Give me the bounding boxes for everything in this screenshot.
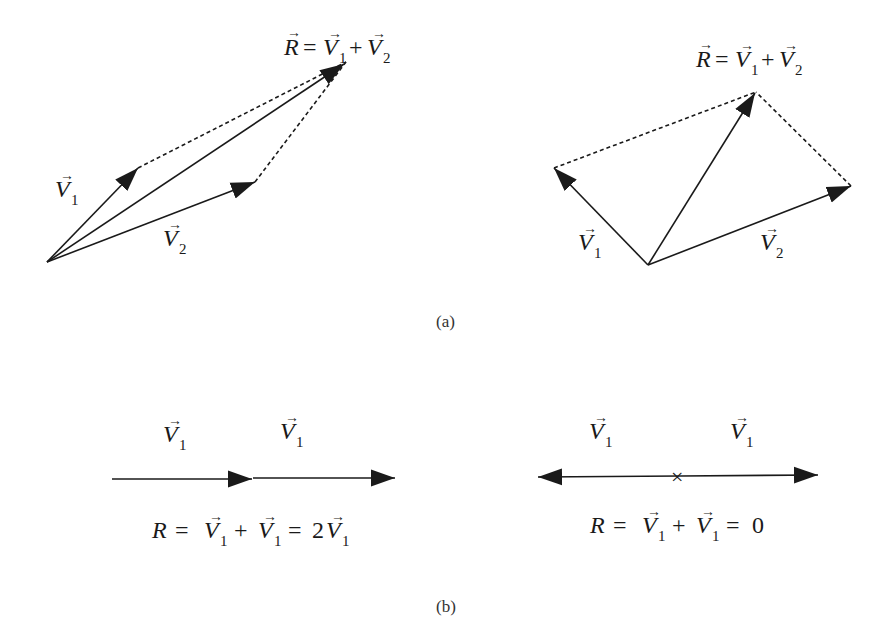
dashed-v1-parallel: [756, 92, 851, 186]
vector-addition-figure: V 1 → V 2 → R → = V → 1 + V → 2 V: [0, 0, 893, 632]
svg-text:→: →: [701, 504, 715, 519]
svg-text:1: 1: [220, 533, 228, 549]
caption-a: (a): [436, 312, 455, 331]
dashed-v2-parallel: [554, 92, 756, 168]
origin-cross-mark: ×: [671, 464, 683, 489]
label-v1: V 1 →: [578, 221, 602, 261]
svg-text:=: =: [613, 512, 627, 538]
svg-text:→: →: [699, 37, 713, 52]
svg-text:2: 2: [179, 241, 187, 257]
svg-text:→: →: [784, 38, 798, 53]
label-v2: V 2 →: [760, 221, 784, 261]
vector-v1-left-arrow: [538, 476, 680, 477]
vector-r-arrow: [47, 64, 344, 262]
label-v1-left: V 1 →: [589, 410, 613, 450]
equation-r-double: R = V → 1 + V → 1 = 2 V → 1: [151, 509, 350, 549]
svg-text:+: +: [349, 34, 363, 60]
vector-arrow-accent: →: [168, 217, 182, 232]
panel-b-left-diagram: V 1 → V 1 → R = V → 1 + V → 1 = 2 V → 1: [112, 410, 395, 549]
svg-text:1: 1: [746, 434, 754, 450]
svg-text:1: 1: [712, 528, 720, 544]
svg-text:→: →: [647, 504, 661, 519]
svg-text:→: →: [285, 410, 299, 425]
label-v1-second: V 1 →: [280, 410, 304, 450]
svg-text:→: →: [287, 25, 301, 40]
svg-text:→: →: [328, 26, 342, 41]
svg-text:→: →: [594, 410, 608, 425]
panel-a-left-diagram: V 1 → V 2 → R → = V → 1 + V → 2: [47, 25, 391, 262]
svg-text:=: =: [303, 34, 317, 60]
equation-r-sum: R → = V → 1 + V → 2: [283, 25, 391, 66]
svg-text:R: R: [151, 517, 167, 543]
panel-a-right-diagram: V 1 → V 2 → R → = V → 1 + V → 2: [554, 37, 851, 265]
svg-text:1: 1: [179, 437, 187, 453]
svg-text:2: 2: [312, 517, 324, 543]
svg-text:1: 1: [751, 62, 759, 78]
svg-text:=: =: [175, 517, 189, 543]
svg-text:2: 2: [383, 50, 391, 66]
figure-svg: V 1 → V 2 → R → = V → 1 + V → 2 V: [0, 0, 893, 632]
svg-text:=: =: [726, 512, 740, 538]
svg-text:→: →: [168, 413, 182, 428]
dashed-v2-parallel: [138, 62, 346, 168]
panel-b-right-diagram: × V 1 → V 1 → R = V → 1 + V → 1 = 0: [538, 410, 818, 544]
svg-text:=: =: [288, 517, 302, 543]
svg-text:→: →: [740, 38, 754, 53]
vector-r-arrow: [648, 93, 755, 265]
vector-arrow-accent: →: [60, 168, 74, 183]
svg-text:→: →: [331, 509, 345, 524]
dashed-v1-parallel: [255, 62, 346, 182]
svg-text:2: 2: [776, 245, 784, 261]
equation-r-zero: R = V → 1 + V → 1 = 0: [589, 504, 764, 544]
svg-text:1: 1: [605, 434, 613, 450]
svg-text:1: 1: [658, 528, 666, 544]
svg-text:+: +: [761, 46, 775, 72]
svg-text:+: +: [234, 517, 248, 543]
svg-text:→: →: [372, 26, 386, 41]
svg-text:1: 1: [296, 434, 304, 450]
vector-v1-right-arrow: [680, 475, 818, 476]
svg-text:1: 1: [71, 192, 79, 208]
svg-text:1: 1: [342, 533, 350, 549]
svg-text:2: 2: [795, 62, 803, 78]
equation-r-sum: R → = V → 1 + V → 2: [695, 37, 803, 78]
svg-text:1: 1: [339, 50, 347, 66]
svg-text:1: 1: [594, 245, 602, 261]
label-v1: V 1 →: [55, 168, 79, 208]
svg-text:R: R: [589, 512, 605, 538]
svg-text:0: 0: [752, 512, 764, 538]
svg-text:→: →: [209, 509, 223, 524]
svg-text:→: →: [583, 221, 597, 236]
vector-v2-arrow: [648, 186, 851, 265]
svg-text:1: 1: [274, 533, 282, 549]
svg-text:+: +: [672, 512, 686, 538]
caption-b: (b): [436, 597, 456, 616]
svg-text:→: →: [263, 509, 277, 524]
label-v1-first: V 1 →: [163, 413, 187, 453]
label-v2: V 2 →: [163, 217, 187, 257]
svg-text:→: →: [765, 221, 779, 236]
label-v1-right: V 1 →: [730, 410, 754, 450]
svg-text:=: =: [715, 46, 729, 72]
svg-text:→: →: [735, 410, 749, 425]
